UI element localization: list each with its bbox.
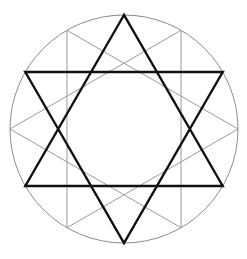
figure-background [0,0,247,259]
figure-canvas [0,0,247,259]
geometric-star-figure [0,0,247,259]
